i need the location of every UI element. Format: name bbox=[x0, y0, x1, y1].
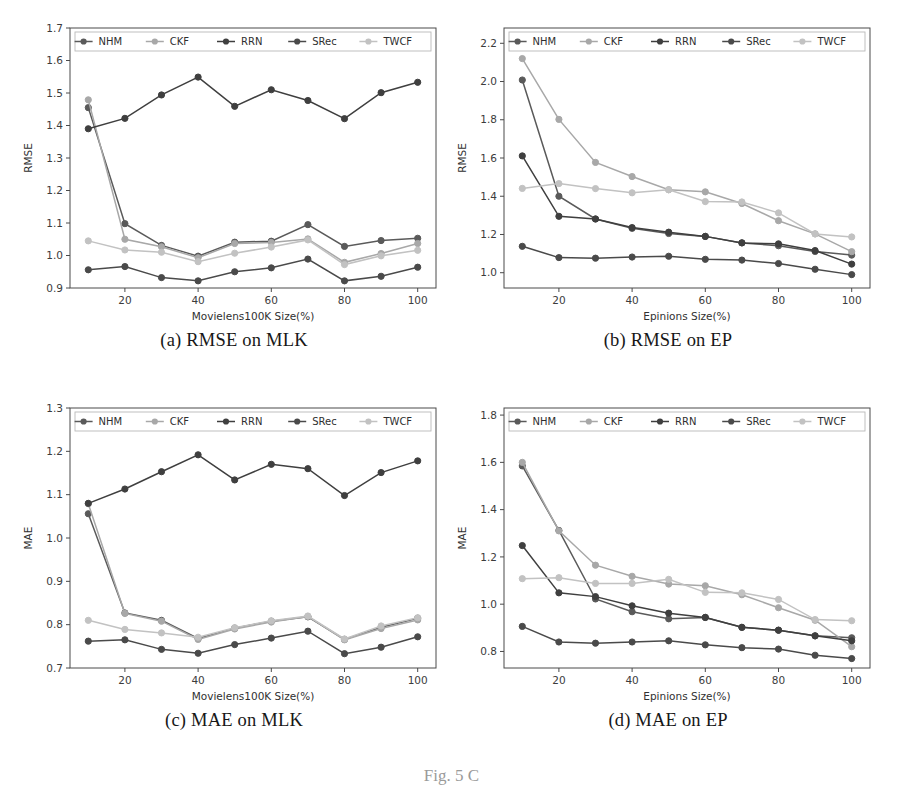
data-point bbox=[556, 528, 562, 534]
legend-marker bbox=[223, 38, 229, 44]
data-point bbox=[775, 241, 781, 247]
data-point bbox=[849, 644, 855, 650]
data-point bbox=[739, 257, 745, 263]
data-point bbox=[849, 618, 855, 624]
data-point bbox=[158, 469, 164, 475]
figure-label: Fig. 5 C bbox=[0, 766, 903, 785]
x-tick-label: 100 bbox=[408, 294, 428, 306]
data-point bbox=[158, 249, 164, 255]
legend-marker bbox=[799, 418, 805, 424]
legend-label: TWCF bbox=[816, 416, 846, 427]
data-point bbox=[702, 256, 708, 262]
data-point bbox=[519, 243, 525, 249]
data-point bbox=[739, 590, 745, 596]
x-tick-label: 100 bbox=[842, 674, 862, 686]
data-point bbox=[268, 618, 274, 624]
data-point bbox=[775, 627, 781, 633]
data-point bbox=[305, 613, 311, 619]
legend-label: SRec bbox=[312, 416, 337, 427]
chart-d: 0.81.01.21.41.61.820406080100Epinions Si… bbox=[452, 398, 884, 714]
data-point bbox=[519, 459, 525, 465]
x-tick-label: 60 bbox=[699, 674, 712, 686]
y-tick-label: 1.8 bbox=[480, 409, 497, 421]
y-tick-label: 1.2 bbox=[46, 445, 63, 457]
data-point bbox=[85, 500, 91, 506]
data-point bbox=[775, 596, 781, 602]
data-point bbox=[122, 626, 128, 632]
y-tick-label: 1.0 bbox=[46, 249, 63, 261]
data-point bbox=[629, 639, 635, 645]
y-tick-label: 1.1 bbox=[46, 217, 63, 229]
data-point bbox=[415, 615, 421, 621]
data-point bbox=[378, 469, 384, 475]
data-point bbox=[122, 486, 128, 492]
data-point bbox=[195, 74, 201, 80]
subfigure-caption-a: (a) RMSE on MLK bbox=[18, 330, 450, 351]
legend-marker bbox=[515, 38, 521, 44]
data-point bbox=[195, 634, 201, 640]
legend-marker bbox=[657, 38, 663, 44]
data-point bbox=[268, 635, 274, 641]
data-point bbox=[158, 92, 164, 98]
data-point bbox=[519, 77, 525, 83]
y-tick-label: 0.7 bbox=[46, 662, 63, 674]
data-point bbox=[592, 594, 598, 600]
y-tick-label: 1.3 bbox=[46, 402, 63, 414]
y-tick-label: 1.2 bbox=[480, 228, 497, 240]
data-point bbox=[556, 255, 562, 261]
data-point bbox=[415, 458, 421, 464]
y-axis-label: MAE bbox=[456, 527, 468, 550]
y-tick-label: 1.1 bbox=[46, 488, 63, 500]
data-point bbox=[232, 103, 238, 109]
legend-label: NHM bbox=[99, 36, 123, 47]
y-tick-label: 1.4 bbox=[480, 190, 497, 202]
y-tick-label: 0.8 bbox=[480, 645, 497, 657]
data-point bbox=[85, 97, 91, 103]
y-axis-label: RMSE bbox=[456, 143, 468, 173]
data-point bbox=[122, 115, 128, 121]
data-point bbox=[775, 260, 781, 266]
data-point bbox=[849, 234, 855, 240]
data-point bbox=[195, 278, 201, 284]
data-point bbox=[739, 199, 745, 205]
y-axis-label: RMSE bbox=[22, 143, 34, 173]
data-point bbox=[341, 243, 347, 249]
data-point bbox=[556, 639, 562, 645]
data-point bbox=[556, 116, 562, 122]
chart-panel-c: 0.70.80.91.01.11.21.320406080100Movielen… bbox=[18, 398, 450, 714]
data-point bbox=[629, 603, 635, 609]
x-tick-label: 60 bbox=[699, 294, 712, 306]
data-point bbox=[268, 87, 274, 93]
x-axis-label: Epinions Size(%) bbox=[643, 690, 730, 702]
chart-b: 1.01.21.41.61.82.02.220406080100Epinions… bbox=[452, 18, 884, 334]
data-point bbox=[519, 542, 525, 548]
data-point bbox=[232, 250, 238, 256]
x-tick-label: 40 bbox=[191, 674, 204, 686]
x-tick-label: 100 bbox=[842, 294, 862, 306]
data-point bbox=[378, 644, 384, 650]
y-tick-label: 1.0 bbox=[480, 598, 497, 610]
data-point bbox=[519, 185, 525, 191]
y-tick-label: 1.6 bbox=[480, 152, 497, 164]
data-point bbox=[666, 638, 672, 644]
data-point bbox=[341, 116, 347, 122]
legend-label: CKF bbox=[170, 416, 190, 427]
chart-panel-a: 0.91.01.11.21.31.41.51.61.720406080100Mo… bbox=[18, 18, 450, 334]
legend-label: CKF bbox=[604, 416, 624, 427]
data-point bbox=[849, 249, 855, 255]
data-point bbox=[378, 253, 384, 259]
data-point bbox=[305, 256, 311, 262]
data-point bbox=[232, 477, 238, 483]
data-point bbox=[158, 275, 164, 281]
data-point bbox=[739, 624, 745, 630]
data-point bbox=[812, 247, 818, 253]
y-tick-label: 1.5 bbox=[46, 87, 63, 99]
data-point bbox=[702, 583, 708, 589]
legend-label: NHM bbox=[533, 36, 557, 47]
data-point bbox=[232, 642, 238, 648]
data-point bbox=[775, 210, 781, 216]
data-point bbox=[122, 247, 128, 253]
y-tick-label: 1.4 bbox=[46, 119, 63, 131]
x-tick-label: 100 bbox=[408, 674, 428, 686]
data-point bbox=[415, 634, 421, 640]
